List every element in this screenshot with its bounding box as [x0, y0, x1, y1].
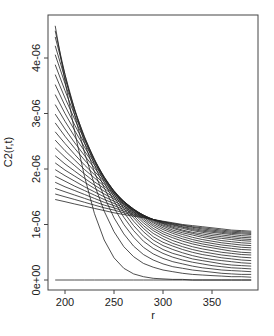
x-tick-label: 300: [154, 296, 172, 308]
y-tick-label: 0e+00: [30, 265, 42, 296]
series-line: [55, 170, 251, 238]
x-tick-label: 350: [203, 296, 221, 308]
series-line: [55, 182, 251, 234]
y-tick-label: 4e-06: [30, 44, 42, 72]
y-axis: 0e+001e-062e-063e-064e-06: [30, 44, 48, 296]
y-tick-label: 2e-06: [30, 155, 42, 183]
series-line: [55, 85, 251, 261]
y-axis-title: C2(r,t): [2, 137, 14, 168]
y-tick-label: 1e-06: [30, 210, 42, 238]
x-tick-label: 200: [56, 296, 74, 308]
x-tick-label: 250: [105, 296, 123, 308]
x-axis-title: r: [151, 309, 155, 321]
x-axis: 200250300350: [56, 290, 221, 308]
line-chart: 200250300350 0e+001e-062e-063e-064e-06 r…: [0, 0, 274, 336]
y-tick-label: 3e-06: [30, 99, 42, 127]
series-lines: [55, 26, 251, 280]
series-line: [55, 46, 251, 272]
